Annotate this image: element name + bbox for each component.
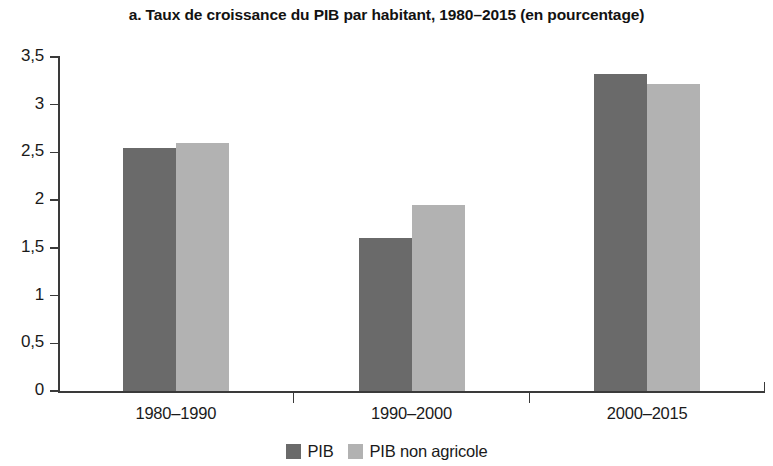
x-axis-tick-label: 1980–1990 <box>76 404 276 423</box>
y-axis-tick-label: 3,5 <box>0 46 44 66</box>
plot-area <box>58 57 765 391</box>
bar-pib <box>123 148 176 391</box>
y-axis-tick-label: 0 <box>0 380 44 400</box>
y-axis-tick <box>50 152 58 154</box>
legend-entry: PIB non agricole <box>348 442 488 461</box>
y-axis-tick <box>50 343 58 345</box>
y-axis-tick-label: 0,5 <box>0 332 44 352</box>
x-axis-tick-label: 2000–2015 <box>547 404 747 423</box>
y-axis-tick <box>50 104 58 106</box>
legend-swatch-icon <box>286 444 301 459</box>
x-axis-line <box>58 391 765 393</box>
chart-legend: PIBPIB non agricole <box>0 442 773 461</box>
y-axis-tick <box>50 295 58 297</box>
bar-pib <box>594 74 647 391</box>
bar-pib-non-agricole <box>412 205 465 391</box>
legend-label: PIB <box>308 442 334 461</box>
y-axis-tick <box>50 247 58 249</box>
y-axis-tick-label: 2 <box>0 189 44 209</box>
y-axis-tick-label: 2,5 <box>0 141 44 161</box>
legend-label: PIB non agricole <box>370 442 488 461</box>
x-axis-separator <box>529 392 531 403</box>
y-axis-tick <box>50 56 58 58</box>
bar-pib-non-agricole <box>647 84 700 391</box>
x-axis-separator <box>293 392 295 403</box>
y-axis-tick <box>50 199 58 201</box>
bar-pib <box>359 238 412 391</box>
legend-entry: PIB <box>286 442 334 461</box>
y-axis-tick-label: 1 <box>0 285 44 305</box>
gdp-growth-bar-chart: a. Taux de croissance du PIB par habitan… <box>0 0 773 466</box>
legend-swatch-icon <box>348 444 363 459</box>
y-axis-tick <box>50 390 58 392</box>
y-axis-tick-label: 3 <box>0 94 44 114</box>
y-axis-tick-label: 1,5 <box>0 237 44 257</box>
bar-pib-non-agricole <box>176 143 229 391</box>
x-axis-tick-label: 1990–2000 <box>312 404 512 423</box>
chart-title: a. Taux de croissance du PIB par habitan… <box>0 6 773 24</box>
